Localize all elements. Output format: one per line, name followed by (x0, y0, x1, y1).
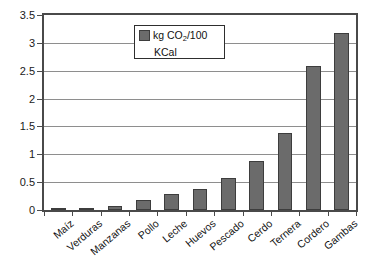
y-axis-tick-mark (37, 154, 42, 155)
x-axis-tick-mark (243, 212, 244, 216)
y-axis-tick-mark (37, 126, 42, 127)
bar (193, 189, 208, 210)
bar (164, 194, 179, 210)
bar (108, 206, 123, 210)
x-axis-tick-mark (328, 212, 329, 216)
legend-swatch-icon (139, 30, 150, 41)
y-axis-tick-label: 0.5 (2, 177, 35, 188)
bar (249, 161, 264, 210)
x-axis-tick-mark (356, 212, 357, 216)
x-axis-tick-mark (186, 212, 187, 216)
legend: kg CO2/100 KCal (134, 25, 225, 59)
x-axis-tick-mark (72, 212, 73, 216)
bar (221, 178, 236, 210)
y-axis-tick-mark (37, 71, 42, 72)
legend-entry: kg CO2/100 (139, 29, 220, 45)
y-axis-tick-label: 2.5 (2, 65, 35, 76)
y-axis-tick-label: 2 (2, 93, 35, 104)
y-axis-tick-mark (37, 43, 42, 44)
y-axis-tick-mark (37, 99, 42, 100)
y-axis-tick-label: 0 (2, 205, 35, 216)
legend-label-suffix: /100 (187, 29, 207, 41)
y-axis-tick-label: 1 (2, 149, 35, 160)
x-axis: MaízVerdurasManzanasPolloLecheHuevosPesc… (42, 213, 358, 276)
y-axis-tick-label: 3.5 (2, 10, 35, 21)
x-axis-tick-mark (271, 212, 272, 216)
y-axis-tick-mark (37, 210, 42, 211)
x-axis-tick-mark (214, 212, 215, 216)
x-axis-tick-mark (44, 212, 45, 216)
bar (334, 33, 349, 210)
bar (306, 66, 321, 210)
bar (79, 208, 94, 210)
legend-label-prefix: kg CO (153, 29, 183, 41)
bar (136, 200, 151, 210)
y-axis-tick-label: 3 (2, 37, 35, 48)
y-axis-tick-mark (37, 182, 42, 183)
y-axis: 00.511.522.533.5 (2, 0, 35, 276)
x-axis-tick-mark (299, 212, 300, 216)
bar (51, 208, 66, 210)
x-axis-tick-mark (157, 212, 158, 216)
y-axis-tick-mark (37, 15, 42, 16)
x-axis-tick-mark (129, 212, 130, 216)
legend-label-line2: KCal (154, 46, 220, 58)
x-axis-tick-mark (101, 212, 102, 216)
bar (278, 133, 293, 210)
legend-label: kg CO2/100 (153, 29, 207, 45)
y-axis-tick-label: 1.5 (2, 121, 35, 132)
bar-chart: 00.511.522.533.5 kg CO2/100 KCal MaízVer… (0, 0, 371, 276)
